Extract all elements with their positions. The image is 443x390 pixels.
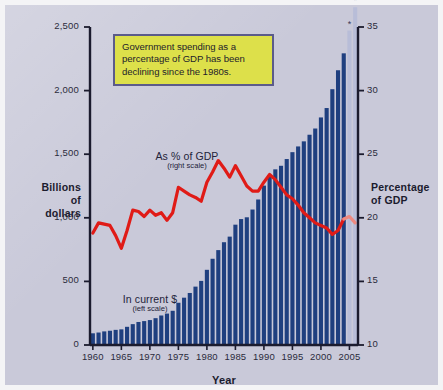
x-axis-tick-label-1970: 1970 [134, 351, 166, 362]
line-percent-of-gdp [93, 161, 344, 249]
series-label-current-dollars-note: (left scale) [98, 304, 202, 313]
bar-1993 [279, 166, 283, 345]
bar-1998 [307, 135, 311, 345]
x-axis-tick-label-1975: 1975 [162, 351, 194, 362]
bar-2002 [330, 89, 334, 345]
x-axis-tick-label-2000: 2000 [305, 351, 337, 362]
bar-1963 [108, 331, 112, 345]
bar-1991 [268, 176, 272, 345]
y-axis-right-tick-label-30: 30 [367, 84, 407, 95]
bar-1989 [256, 199, 260, 345]
bar-1962 [102, 331, 106, 345]
series-label-percent-gdp: As % of GDP (right scale) [133, 150, 241, 170]
bar-1987 [245, 217, 249, 345]
bar-2000 [319, 117, 323, 345]
bar-1970 [148, 320, 152, 345]
bar-1982 [216, 250, 220, 345]
series-label-percent-gdp-note: (right scale) [133, 161, 241, 170]
x-axis-tick-label-1980: 1980 [191, 351, 223, 362]
bar-2004 [342, 53, 346, 345]
bar-1985 [233, 225, 237, 345]
bar-1981 [211, 259, 215, 345]
bar-1968 [136, 322, 140, 345]
callout-box: Government spending as a percentage of G… [113, 34, 274, 86]
bar-1973 [165, 314, 169, 345]
bar-1990 [262, 186, 266, 345]
bar-1971 [154, 318, 158, 345]
bar-1969 [142, 321, 146, 345]
x-axis-tick-label-2005: 2005 [333, 351, 365, 362]
bar-1972 [159, 315, 163, 345]
bar-2003 [336, 70, 340, 345]
y-axis-right-tick-label-10: 10 [367, 338, 407, 349]
bar-1965 [119, 329, 123, 345]
x-axis-tick-label-1965: 1965 [105, 351, 137, 362]
bar-1996 [296, 146, 300, 345]
bar-1964 [114, 330, 118, 345]
y-axis-right-title-line-2: of GDP [371, 194, 443, 207]
y-axis-left-title-line-2: of [11, 194, 81, 207]
bar-1980 [205, 270, 209, 345]
y-axis-left-tick-label-500: 500 [25, 274, 79, 285]
bar-1967 [131, 324, 135, 345]
x-axis-tick-label-1990: 1990 [248, 351, 280, 362]
bar-2005 [347, 31, 351, 345]
bar-2006 [353, 7, 357, 345]
y-axis-right-title-line-1: Percentage [371, 181, 443, 194]
y-axis-left-tick-label-2500: 2,500 [25, 20, 79, 31]
bar-1960 [91, 333, 95, 345]
series-label-current-dollars: In current $ (left scale) [98, 293, 202, 313]
y-axis-left-title-line-1: Billions [11, 181, 81, 194]
bar-1997 [302, 141, 306, 345]
y-axis-right-tick-label-35: 35 [367, 20, 407, 31]
bar-1992 [273, 169, 277, 345]
bar-1984 [228, 237, 232, 345]
bar-1983 [222, 242, 226, 345]
x-axis-tick-label-1960: 1960 [77, 351, 109, 362]
x-axis-tick-label-1995: 1995 [276, 351, 308, 362]
chart-figure: B Billions of dollars Percentage of GDP … [0, 0, 443, 390]
bar-1999 [313, 129, 317, 345]
bar-1986 [239, 219, 243, 345]
bar-1974 [171, 311, 175, 345]
x-axis-title: Year [90, 374, 358, 387]
y-axis-left-tick-label-1000: 1,000 [25, 211, 79, 222]
bar-1994 [285, 159, 289, 345]
y-axis-right-tick-label-25: 25 [367, 147, 407, 158]
projection-asterisk-2005: * [348, 19, 352, 29]
y-axis-left-tick-label-0: 0 [25, 338, 79, 349]
y-axis-left-tick-label-1500: 1,500 [25, 147, 79, 158]
y-axis-left-tick-label-2000: 2,000 [25, 84, 79, 95]
projection-asterisk-2006: * [353, 0, 357, 5]
x-axis-tick-label-1985: 1985 [219, 351, 251, 362]
bar-1961 [97, 333, 101, 345]
y-axis-right-title: Percentage of GDP [371, 181, 443, 207]
bar-1988 [250, 210, 254, 345]
bar-1966 [125, 327, 129, 345]
bar-1995 [290, 152, 294, 345]
callout-text: Government spending as a percentage of G… [122, 41, 245, 77]
y-axis-right-tick-label-15: 15 [367, 274, 407, 285]
y-axis-right-tick-label-20: 20 [367, 211, 407, 222]
